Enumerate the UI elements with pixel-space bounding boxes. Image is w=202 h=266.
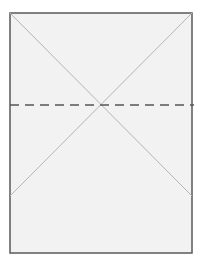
fold-diagram: [0, 0, 202, 266]
paper-sheet: [10, 13, 192, 253]
